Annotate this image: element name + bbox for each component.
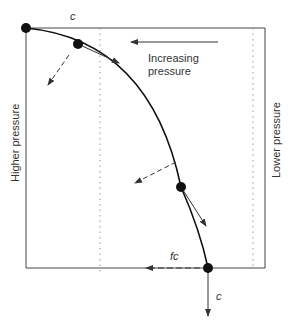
start-dot [21, 23, 31, 33]
end-dot [203, 263, 213, 273]
top-c-label: c [70, 10, 76, 22]
trajectory-curve [26, 28, 208, 268]
pressure-frame [26, 28, 265, 268]
fc-label: fc [170, 250, 179, 262]
p1-dashed-arrow [48, 55, 69, 85]
lower-pressure-label: Lower pressure [270, 102, 282, 178]
increasing-label-2: pressure [148, 65, 191, 77]
p2-dot [176, 182, 186, 192]
p1-dot [73, 39, 83, 49]
increasing-label-1: Increasing [148, 52, 199, 64]
bottom-c-label: c [216, 290, 222, 302]
diagram-canvas: c Increasing pressure Higher pressure Lo… [0, 0, 291, 328]
higher-pressure-label: Higher pressure [9, 104, 21, 182]
p1-tangent-arrow [78, 44, 119, 63]
p2-dashed-arrow [135, 162, 176, 183]
